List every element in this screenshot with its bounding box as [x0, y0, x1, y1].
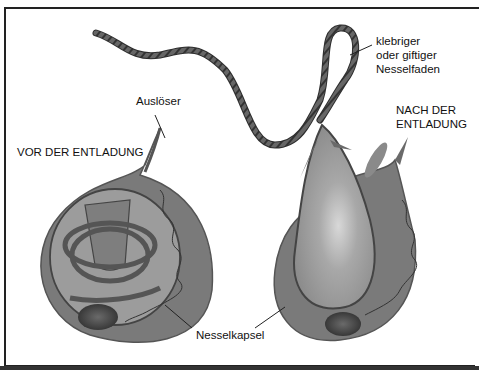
label-thread-line2: oder giftiger — [376, 48, 437, 62]
label-capsule: Nesselkapsel — [196, 328, 264, 342]
label-after-discharge-line1: NACH DER — [396, 103, 456, 117]
nucleus-after — [325, 312, 361, 336]
label-trigger: Auslöser — [136, 94, 181, 108]
thread-discharged — [96, 28, 356, 145]
nucleus-before — [78, 304, 118, 330]
label-before-discharge: VOR DER ENTLADUNG — [17, 145, 144, 159]
label-thread-line3: Nesselfaden — [376, 62, 440, 76]
label-thread-line1: klebriger — [376, 34, 420, 48]
cell-before-discharge — [41, 128, 213, 342]
cell-after-discharge — [274, 125, 416, 340]
capsule-after — [294, 125, 375, 308]
label-after-discharge-line2: ENTLADUNG — [396, 117, 467, 131]
